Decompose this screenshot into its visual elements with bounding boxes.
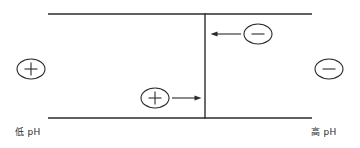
anion-entering-from-right	[244, 24, 272, 44]
anion-flux-arrow	[211, 31, 242, 36]
low-ph-label: 低 pH	[15, 125, 41, 138]
cation-flux-arrow	[172, 95, 202, 100]
membrane-diagram	[0, 0, 360, 148]
diagram-canvas: 低 pH 高 pH	[0, 0, 360, 148]
high-ph-label: 高 pH	[311, 125, 337, 138]
arrow-head-left	[211, 31, 218, 36]
left-exterior-cation	[17, 59, 45, 79]
right-exterior-anion	[315, 59, 343, 79]
cation-entering-from-left	[141, 88, 169, 108]
arrow-head-right	[195, 95, 202, 100]
